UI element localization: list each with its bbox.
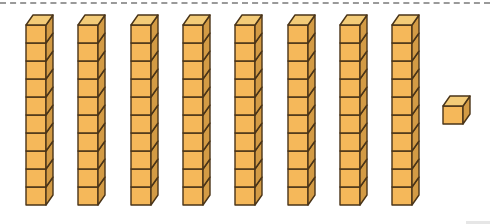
cube-front-face <box>340 151 360 169</box>
cube-front-face <box>183 115 203 133</box>
cube-front-face <box>288 151 308 169</box>
cube-front-face <box>131 61 151 79</box>
ten-rod <box>235 15 262 205</box>
cube-front-face <box>78 97 98 115</box>
cube-front-face <box>26 151 46 169</box>
cube-front-face <box>26 79 46 97</box>
cube-front-face <box>131 187 151 205</box>
cube-front-face <box>235 79 255 97</box>
cube-front-face <box>340 97 360 115</box>
ten-rod <box>78 15 105 205</box>
cube-front-face <box>392 151 412 169</box>
unit-cube <box>443 96 470 124</box>
cube-front-face <box>340 79 360 97</box>
cube-front-face <box>288 187 308 205</box>
cube-front-face <box>288 169 308 187</box>
cube-front-face <box>78 151 98 169</box>
cube-front-face <box>288 25 308 43</box>
cube-front-face <box>131 25 151 43</box>
cube-front-face <box>235 115 255 133</box>
cube-front-face <box>288 133 308 151</box>
cube-front-face <box>392 97 412 115</box>
cube-front-face <box>183 151 203 169</box>
ten-rod <box>392 15 419 205</box>
cube-front-face <box>340 187 360 205</box>
cube-front-face <box>78 133 98 151</box>
cube-front-face <box>235 97 255 115</box>
ten-rod <box>26 15 53 205</box>
ten-rod <box>131 15 158 205</box>
cube-front-face <box>235 187 255 205</box>
cube-front-face <box>26 133 46 151</box>
cube-front-face <box>183 169 203 187</box>
corner-bar <box>466 221 490 224</box>
cube-front-face <box>443 106 463 124</box>
cube-front-face <box>26 61 46 79</box>
cube-front-face <box>26 115 46 133</box>
cube-front-face <box>183 133 203 151</box>
cube-front-face <box>392 187 412 205</box>
cube-front-face <box>26 43 46 61</box>
cube-front-face <box>78 43 98 61</box>
cube-front-face <box>131 169 151 187</box>
cube-front-face <box>235 43 255 61</box>
cube-front-face <box>78 61 98 79</box>
cube-front-face <box>288 79 308 97</box>
cube-front-face <box>78 187 98 205</box>
cube-front-face <box>131 151 151 169</box>
cube-front-face <box>288 43 308 61</box>
cube-front-face <box>26 97 46 115</box>
cube-front-face <box>235 133 255 151</box>
cube-front-face <box>392 61 412 79</box>
cube-front-face <box>26 169 46 187</box>
cube-front-face <box>340 169 360 187</box>
cube-front-face <box>131 97 151 115</box>
cube-front-face <box>235 61 255 79</box>
cube-front-face <box>26 25 46 43</box>
base-ten-blocks <box>0 0 490 224</box>
ten-rod <box>288 15 315 205</box>
cube-front-face <box>183 25 203 43</box>
cube-front-face <box>78 169 98 187</box>
cube-front-face <box>392 25 412 43</box>
cube-front-face <box>183 79 203 97</box>
cube-front-face <box>183 43 203 61</box>
cube-front-face <box>340 115 360 133</box>
cube-front-face <box>26 187 46 205</box>
cube-front-face <box>340 133 360 151</box>
cube-front-face <box>288 97 308 115</box>
cube-front-face <box>288 61 308 79</box>
cube-front-face <box>235 169 255 187</box>
cube-front-face <box>131 43 151 61</box>
cube-front-face <box>183 61 203 79</box>
cube-front-face <box>131 133 151 151</box>
ten-rod <box>183 15 210 205</box>
cube-front-face <box>131 79 151 97</box>
cube-front-face <box>235 25 255 43</box>
cube-front-face <box>131 115 151 133</box>
cube-front-face <box>392 115 412 133</box>
cube-front-face <box>183 187 203 205</box>
cube-front-face <box>392 133 412 151</box>
cube-front-face <box>340 43 360 61</box>
cube-front-face <box>78 25 98 43</box>
cube-front-face <box>392 79 412 97</box>
cube-front-face <box>78 115 98 133</box>
cube-front-face <box>183 97 203 115</box>
cube-front-face <box>392 169 412 187</box>
cube-front-face <box>340 61 360 79</box>
cube-front-face <box>78 79 98 97</box>
cube-front-face <box>392 43 412 61</box>
ten-rod <box>340 15 367 205</box>
cube-front-face <box>288 115 308 133</box>
cube-front-face <box>235 151 255 169</box>
cube-front-face <box>340 25 360 43</box>
